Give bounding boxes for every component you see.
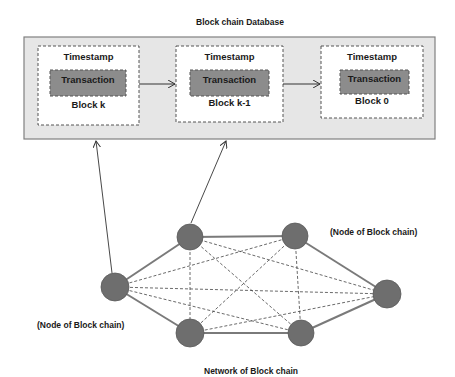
block-name: Block 0 (355, 95, 389, 106)
block-timestamp: Timestamp (347, 51, 397, 62)
block-k-1: Timestamp Transaction Block k-1 (176, 46, 283, 122)
node-top-right (282, 223, 308, 249)
block-k: Timestamp Transaction Block k (38, 46, 139, 125)
database-title: Block chain Database (196, 17, 284, 27)
network-title: Network of Block chain (204, 366, 298, 376)
node-right (373, 280, 401, 308)
node-to-database-arrow (96, 141, 112, 273)
transaction-label: Transaction (61, 74, 115, 85)
ring-edges (115, 236, 387, 333)
block-name: Block k (72, 99, 107, 110)
block-timestamp: Timestamp (205, 51, 255, 62)
node-label-left: (Node of Block chain) (37, 320, 125, 330)
block-name: Block k-1 (208, 97, 251, 108)
node-top-left (177, 224, 203, 250)
node-label-right: (Node of Block chain) (330, 227, 418, 237)
transaction-label: Transaction (348, 73, 402, 84)
node-left (101, 273, 129, 301)
node-bottom-left (176, 319, 204, 347)
node-to-database-arrow (191, 141, 226, 223)
block-0: Timestamp Transaction Block 0 (321, 46, 423, 118)
mesh-edges (115, 236, 387, 333)
transaction-label: Transaction (203, 74, 257, 85)
blockchain-diagram: Block chain Database Timestamp Transacti… (0, 0, 455, 377)
block-timestamp: Timestamp (64, 51, 114, 62)
node-bottom-right (288, 320, 314, 346)
